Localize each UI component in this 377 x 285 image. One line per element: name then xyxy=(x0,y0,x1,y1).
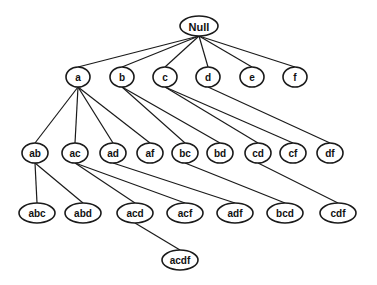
edge-a-ad xyxy=(78,87,113,143)
node-acdf: acdf xyxy=(162,250,198,270)
node-bd: bd xyxy=(207,143,233,163)
edge-c-cf xyxy=(165,87,293,143)
node-label: e xyxy=(249,72,255,83)
node-label: bc xyxy=(179,148,191,159)
node-label: c xyxy=(162,72,168,83)
node-label: adf xyxy=(228,208,244,219)
node-label: d xyxy=(205,72,211,83)
edge-ac-acd xyxy=(75,163,135,203)
node-bcd: bcd xyxy=(267,203,303,223)
node-c: c xyxy=(153,67,177,87)
edge-a-af xyxy=(78,87,150,143)
node-label: af xyxy=(146,148,156,159)
node-bc: bc xyxy=(172,143,198,163)
node-cf: cf xyxy=(280,143,306,163)
edge-a-ac xyxy=(75,87,78,143)
edge-ab-abd xyxy=(35,163,83,203)
edge-c-cd xyxy=(165,87,258,143)
node-ab: ab xyxy=(22,143,48,163)
node-label: b xyxy=(119,72,125,83)
tree-nodes: Nullabcdefabacadafbcbdcdcfdfabcabdacdacf… xyxy=(19,16,356,270)
edge-b-bd xyxy=(122,87,220,143)
node-null: Null xyxy=(180,16,218,36)
edge-ab-abc xyxy=(35,163,37,203)
node-label: Null xyxy=(189,21,210,33)
edge-b-bc xyxy=(122,87,185,143)
edge-Null-a xyxy=(78,36,199,67)
node-label: abc xyxy=(28,208,46,219)
edge-Null-f xyxy=(199,36,295,67)
node-cdf: cdf xyxy=(320,203,356,223)
node-label: a xyxy=(75,72,81,83)
node-f: f xyxy=(283,67,307,87)
node-abd: abd xyxy=(65,203,101,223)
node-label: bcd xyxy=(276,208,294,219)
node-df: df xyxy=(317,143,343,163)
node-label: acdf xyxy=(170,255,191,266)
node-acf: acf xyxy=(167,203,203,223)
node-label: ac xyxy=(69,148,81,159)
node-ad: ad xyxy=(100,143,126,163)
node-label: acd xyxy=(126,208,143,219)
node-b: b xyxy=(110,67,134,87)
node-af: af xyxy=(137,143,163,163)
node-cd: cd xyxy=(245,143,271,163)
node-label: df xyxy=(325,148,335,159)
node-d: d xyxy=(196,67,220,87)
node-acd: acd xyxy=(117,203,153,223)
edge-Null-b xyxy=(122,36,199,67)
node-abc: abc xyxy=(19,203,55,223)
node-label: acf xyxy=(178,208,193,219)
node-adf: adf xyxy=(217,203,253,223)
edge-d-df xyxy=(208,87,330,143)
node-label: abd xyxy=(74,208,92,219)
itemset-tree-diagram: Nullabcdefabacadafbcbdcdcfdfabcabdacdacf… xyxy=(0,0,377,285)
edge-a-ab xyxy=(35,87,78,143)
edge-acd-acdf xyxy=(135,223,180,250)
node-label: ab xyxy=(29,148,41,159)
node-label: bd xyxy=(214,148,226,159)
node-label: cd xyxy=(252,148,264,159)
node-e: e xyxy=(240,67,264,87)
node-a: a xyxy=(66,67,90,87)
node-label: ad xyxy=(107,148,119,159)
node-label: cdf xyxy=(331,208,347,219)
node-ac: ac xyxy=(62,143,88,163)
node-label: cf xyxy=(289,148,299,159)
